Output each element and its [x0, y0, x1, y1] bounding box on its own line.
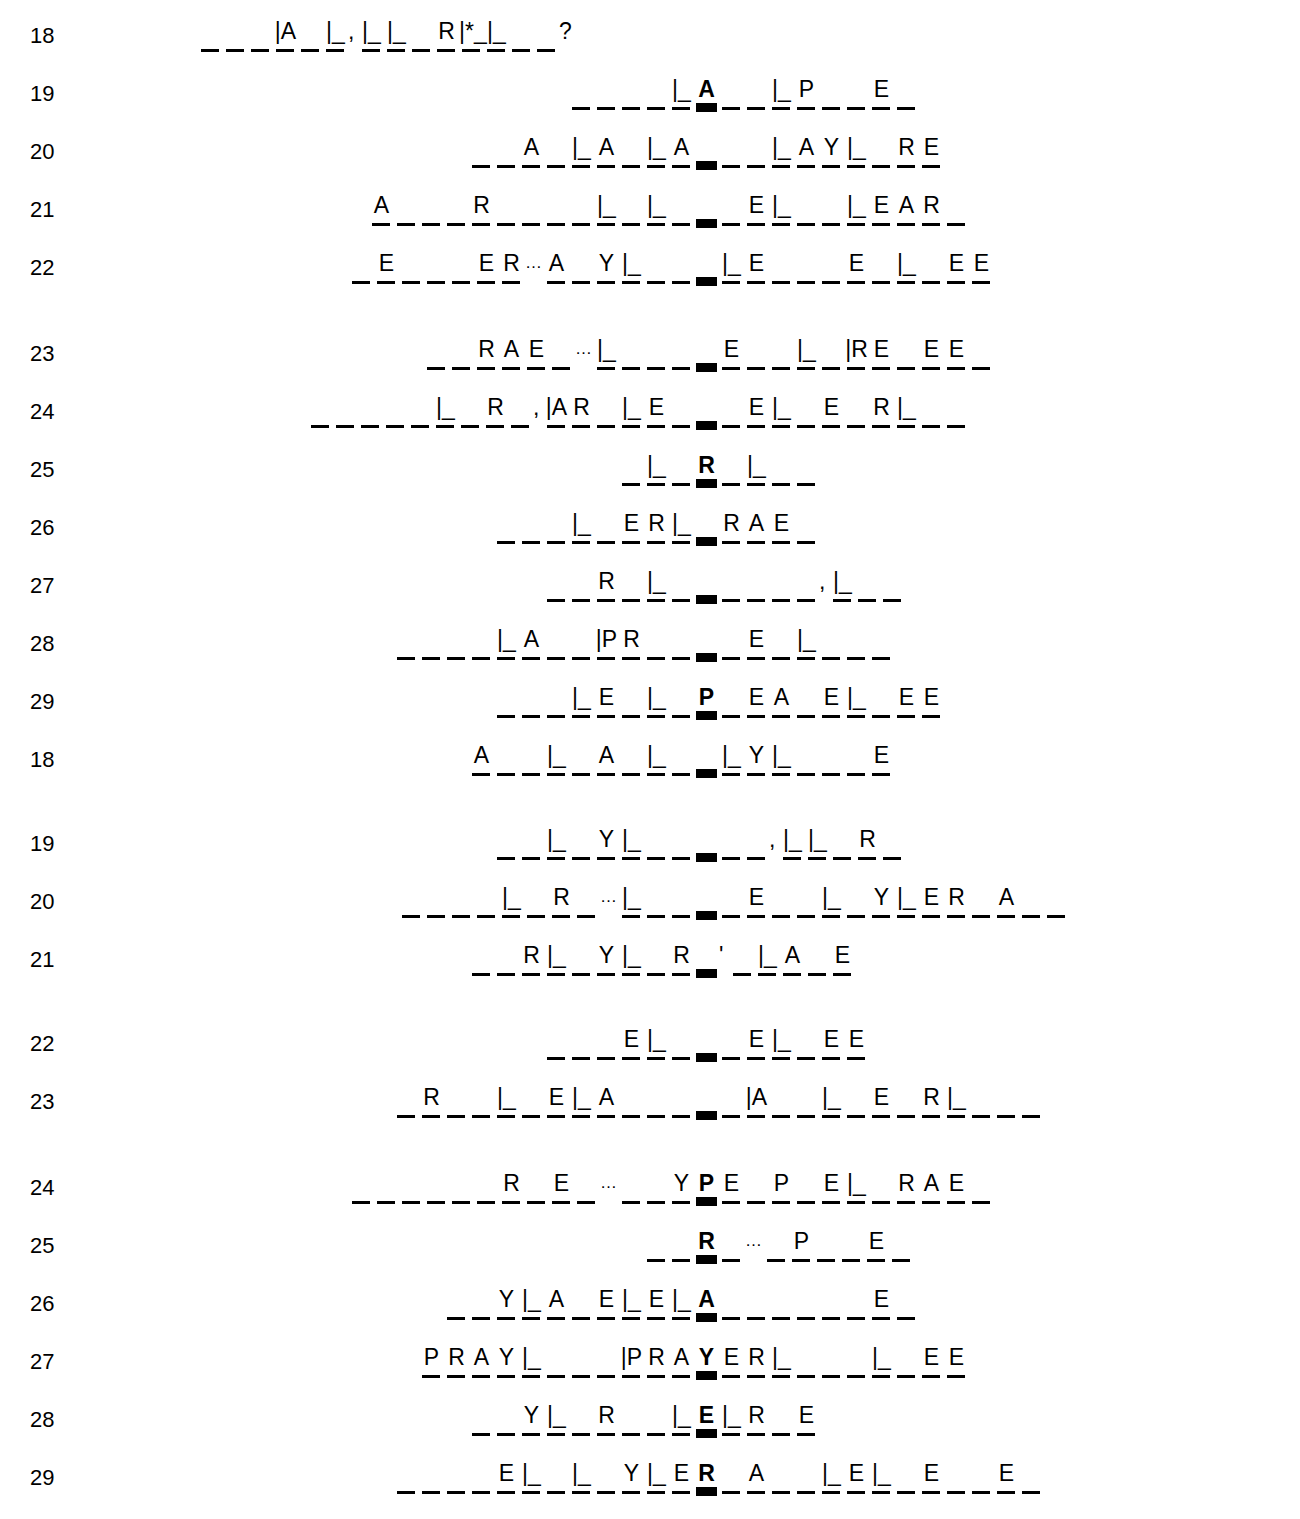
blank-cell[interactable] [894, 1460, 919, 1500]
blank-cell[interactable] [223, 18, 248, 58]
blank-cell[interactable] [644, 1228, 669, 1268]
blank-cell[interactable] [544, 1460, 569, 1500]
blank-cell[interactable] [594, 394, 619, 434]
blank-cell[interactable] [644, 250, 669, 290]
blank-cell[interactable] [619, 1084, 644, 1124]
letter-cell[interactable]: R [744, 1344, 769, 1384]
letter-cell[interactable]: A [544, 250, 569, 290]
blank-cell[interactable] [619, 1170, 644, 1210]
blank-cell[interactable] [569, 1026, 594, 1066]
blank-cell[interactable] [794, 510, 819, 550]
blank-cell[interactable] [719, 452, 744, 492]
blank-cell[interactable] [419, 1460, 444, 1500]
letter-cell[interactable]: |_ [594, 192, 619, 232]
blank-cell[interactable] [394, 1460, 419, 1500]
letter-cell[interactable]: A [499, 336, 524, 376]
blank-cell[interactable] [794, 452, 819, 492]
blank-cell[interactable] [719, 134, 744, 174]
blank-cell[interactable] [794, 1286, 819, 1326]
letter-cell[interactable]: |_ [569, 134, 594, 174]
blank-cell[interactable] [894, 336, 919, 376]
letter-cell[interactable]: R [594, 1402, 619, 1442]
blank-cell[interactable] [794, 394, 819, 434]
blank-cell[interactable] [569, 250, 594, 290]
blank-cell[interactable] [469, 1460, 494, 1500]
letter-cell[interactable]: R [894, 1170, 919, 1210]
letter-cell[interactable]: E [819, 394, 844, 434]
blank-cell[interactable] [408, 394, 433, 434]
blank-cell[interactable] [794, 884, 819, 924]
blank-cell[interactable] [944, 1460, 969, 1500]
letter-cell[interactable]: |_ [894, 884, 919, 924]
blank-cell[interactable] [769, 452, 794, 492]
blank-cell[interactable] [844, 742, 869, 782]
letter-cell[interactable]: |_ [894, 250, 919, 290]
blank-cell[interactable] [644, 884, 669, 924]
letter-cell[interactable]: |_ [619, 884, 644, 924]
blank-cell[interactable] [669, 1084, 694, 1124]
letter-cell[interactable]: R [469, 192, 494, 232]
blank-cell[interactable] [569, 742, 594, 782]
letter-cell[interactable]: R [499, 1170, 524, 1210]
blank-cell[interactable] [819, 742, 844, 782]
blank-cell[interactable] [719, 626, 744, 666]
blank-cell[interactable] [494, 942, 519, 982]
blank-cell[interactable] [574, 884, 599, 924]
blank-cell[interactable] [669, 192, 694, 232]
letter-cell[interactable]: |_ [544, 1402, 569, 1442]
blank-cell[interactable] [744, 336, 769, 376]
letter-cell[interactable]: Y [594, 826, 619, 866]
letter-cell[interactable]: A [519, 134, 544, 174]
blank-cell[interactable] [855, 568, 880, 608]
blank-cell[interactable] [719, 1286, 744, 1326]
blank-cell[interactable] [669, 684, 694, 724]
letter-cell[interactable]: |P [594, 626, 619, 666]
blank-cell[interactable] [794, 1084, 819, 1124]
letter-cell[interactable]: |_ [769, 192, 794, 232]
blank-cell[interactable] [994, 1084, 1019, 1124]
blank-cell[interactable] [594, 76, 619, 116]
letter-cell[interactable]: |_ [499, 884, 524, 924]
blank-cell[interactable] [1019, 1084, 1044, 1124]
letter-cell[interactable]: |_ [769, 1026, 794, 1066]
letter-cell[interactable]: E [744, 626, 769, 666]
letter-cell[interactable]: A [894, 192, 919, 232]
blank-cell[interactable] [794, 1460, 819, 1500]
letter-cell[interactable]: R [594, 568, 619, 608]
blank-cell[interactable] [744, 826, 769, 866]
blank-cell[interactable] [469, 942, 494, 982]
blank-cell[interactable] [298, 18, 323, 58]
letter-cell[interactable]: |_ [569, 1460, 594, 1500]
letter-cell[interactable]: |_ [819, 884, 844, 924]
letter-cell[interactable]: E [374, 250, 399, 290]
letter-cell[interactable]: A [594, 134, 619, 174]
letter-cell[interactable]: R [569, 394, 594, 434]
blank-cell[interactable] [494, 742, 519, 782]
blank-cell[interactable] [444, 1084, 469, 1124]
letter-cell[interactable]: E [819, 684, 844, 724]
blank-cell[interactable] [919, 250, 944, 290]
letter-cell[interactable]: |_ [569, 1084, 594, 1124]
blank-cell[interactable] [764, 1228, 789, 1268]
blank-cell[interactable] [444, 1460, 469, 1500]
blank-cell[interactable] [669, 626, 694, 666]
letter-cell[interactable]: E [944, 250, 969, 290]
letter-cell[interactable]: |_ [519, 1286, 544, 1326]
key-letter-cell[interactable]: R [694, 1460, 719, 1500]
blank-cell[interactable] [619, 684, 644, 724]
blank-cell[interactable] [719, 1228, 744, 1268]
blank-cell[interactable] [619, 134, 644, 174]
blank-cell[interactable] [805, 942, 830, 982]
blank-cell[interactable] [544, 568, 569, 608]
blank-cell[interactable] [869, 134, 894, 174]
letter-cell[interactable]: |_ [819, 1460, 844, 1500]
letter-cell[interactable]: A [519, 626, 544, 666]
letter-cell[interactable]: R [944, 884, 969, 924]
blank-cell[interactable] [449, 1170, 474, 1210]
letter-cell[interactable]: |_ [644, 134, 669, 174]
letter-cell[interactable]: E [994, 1460, 1019, 1500]
blank-cell[interactable] [644, 626, 669, 666]
blank-cell[interactable] [894, 1286, 919, 1326]
letter-cell[interactable]: E [919, 336, 944, 376]
blank-cell[interactable] [880, 826, 905, 866]
